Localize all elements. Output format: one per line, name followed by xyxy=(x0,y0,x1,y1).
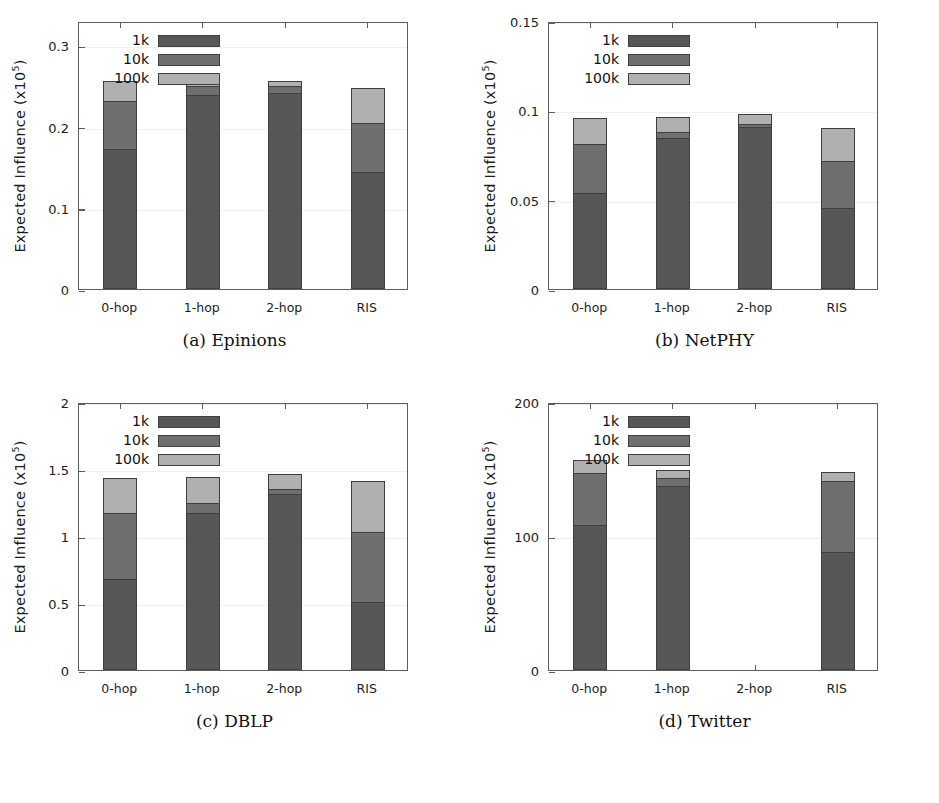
stacked-bar xyxy=(351,481,385,670)
y-tick-label: 0.05 xyxy=(470,193,539,208)
x-tick-label: RIS xyxy=(327,300,407,315)
x-tick-mark-top xyxy=(202,404,203,409)
x-tick-label: 1-hop xyxy=(162,681,242,696)
x-tick-mark-top xyxy=(755,404,756,409)
grid-line xyxy=(549,404,877,405)
bar-segment-10k xyxy=(103,513,137,579)
y-tick-label: 1 xyxy=(0,530,69,545)
x-tick-label: 1-hop xyxy=(632,681,712,696)
x-tick-label: 0-hop xyxy=(79,300,159,315)
y-tick-label: 0.15 xyxy=(470,15,539,30)
legend-label: 100k xyxy=(575,71,619,86)
legend-item-100k: 100k xyxy=(575,452,690,467)
x-tick-mark-top xyxy=(120,23,121,28)
x-tick-label: 2-hop xyxy=(714,300,794,315)
x-tick-label: 2-hop xyxy=(244,681,324,696)
bar-segment-10k xyxy=(268,86,302,93)
y-tick-mark xyxy=(79,209,85,210)
y-tick-label: 0 xyxy=(0,664,69,679)
bar-segment-100k xyxy=(268,474,302,489)
y-axis-label-exponent: 5 xyxy=(480,65,491,71)
stacked-bar xyxy=(656,117,690,289)
legend-item-1k: 1k xyxy=(105,33,220,48)
bar-segment-100k xyxy=(738,114,772,124)
legend-swatch-100k xyxy=(158,454,220,466)
y-tick-label: 1.5 xyxy=(0,463,69,478)
legend: 1k10k100k xyxy=(575,33,690,86)
legend: 1k10k100k xyxy=(105,414,220,467)
y-tick-label: 0 xyxy=(470,283,539,298)
bar-segment-100k xyxy=(186,477,220,502)
y-tick-label: 2 xyxy=(0,396,69,411)
legend-swatch-1k xyxy=(628,416,690,428)
y-tick-mark xyxy=(79,128,85,129)
legend-swatch-100k xyxy=(628,454,690,466)
chart-panel-dblp: Expected Influence (x105)00.511.520-hop1… xyxy=(0,381,469,781)
legend-item-10k: 10k xyxy=(575,52,690,67)
y-tick-mark xyxy=(549,672,555,673)
y-tick-label: 0 xyxy=(0,283,69,298)
y-tick-mark xyxy=(79,672,85,673)
bar-segment-100k xyxy=(573,118,607,144)
y-tick-label: 100 xyxy=(470,530,539,545)
bar-segment-1k xyxy=(103,149,137,289)
plot-area: 1k10k100k xyxy=(548,22,878,290)
bar-segment-1k xyxy=(268,494,302,670)
legend: 1k10k100k xyxy=(105,33,220,86)
y-tick-label: 0.5 xyxy=(0,597,69,612)
y-tick-label: 0.2 xyxy=(0,120,69,135)
stacked-bar xyxy=(103,81,137,289)
bar-segment-1k xyxy=(351,172,385,289)
bar-segment-10k xyxy=(351,532,385,602)
y-tick-label: 0.1 xyxy=(0,201,69,216)
stacked-bar xyxy=(268,474,302,670)
x-tick-mark-top xyxy=(285,23,286,28)
chart-panel-epinions: Expected Influence (x105)00.10.20.30-hop… xyxy=(0,0,469,400)
x-tick-mark-top xyxy=(755,23,756,28)
bar-segment-1k xyxy=(186,513,220,670)
bar-segment-1k xyxy=(268,93,302,289)
bar-segment-100k xyxy=(656,117,690,132)
x-tick-label: 0-hop xyxy=(549,300,629,315)
legend: 1k10k100k xyxy=(575,414,690,467)
y-tick-mark xyxy=(79,291,85,292)
y-tick-mark xyxy=(79,471,85,472)
legend-swatch-100k xyxy=(158,73,220,85)
y-tick-mark xyxy=(549,112,555,113)
y-tick-mark xyxy=(79,538,85,539)
x-tick-label: 1-hop xyxy=(632,300,712,315)
x-tick-mark-top xyxy=(672,23,673,28)
stacked-bar xyxy=(821,472,855,670)
legend-label: 10k xyxy=(575,52,619,67)
stacked-bar xyxy=(268,81,302,289)
bar-segment-1k xyxy=(656,138,690,289)
panel-caption-dblp: (c) DBLP xyxy=(0,711,469,731)
x-tick-label: 1-hop xyxy=(162,300,242,315)
bar-segment-1k xyxy=(573,193,607,289)
plot-area: 1k10k100k xyxy=(78,22,408,290)
legend-label: 1k xyxy=(575,33,619,48)
legend-label: 10k xyxy=(105,433,149,448)
plot-area: 1k10k100k xyxy=(548,403,878,671)
bar-segment-10k xyxy=(573,473,607,525)
chart-panel-netphy: Expected Influence (x105)00.050.10.150-h… xyxy=(470,0,939,400)
chart-panel-twitter: Expected Influence (x105)01002000-hop1-h… xyxy=(470,381,939,781)
legend-label: 100k xyxy=(105,71,149,86)
grid-line xyxy=(79,471,407,472)
x-tick-mark-top xyxy=(590,23,591,28)
bar-segment-1k xyxy=(351,602,385,670)
y-tick-mark xyxy=(549,23,555,24)
y-tick-mark xyxy=(79,605,85,606)
bar-segment-1k xyxy=(656,486,690,670)
stacked-bar xyxy=(351,88,385,289)
bar-segment-100k xyxy=(656,470,690,478)
legend-swatch-100k xyxy=(628,73,690,85)
x-tick-mark-top xyxy=(590,404,591,409)
legend-label: 10k xyxy=(105,52,149,67)
legend-item-100k: 100k xyxy=(575,71,690,86)
legend-swatch-10k xyxy=(158,54,220,66)
legend-item-1k: 1k xyxy=(575,414,690,429)
legend-swatch-1k xyxy=(158,416,220,428)
y-axis-label-exponent: 5 xyxy=(10,65,21,71)
x-tick-label: RIS xyxy=(327,681,407,696)
